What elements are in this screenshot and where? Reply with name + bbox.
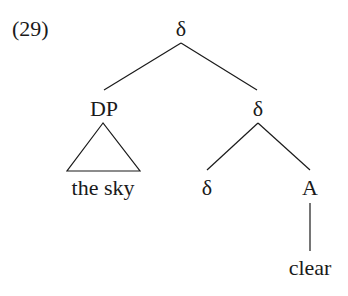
example-number: (29) bbox=[12, 16, 49, 41]
delta-node-right: δ bbox=[253, 96, 263, 121]
root-node: δ bbox=[176, 16, 186, 41]
dp-node: DP bbox=[90, 96, 118, 121]
branch-root-delta bbox=[181, 43, 257, 90]
branch-delta-a bbox=[258, 123, 310, 170]
branch-delta-delta bbox=[207, 123, 258, 170]
delta-node-lower: δ bbox=[202, 175, 212, 200]
dp-terminal: the sky bbox=[72, 175, 135, 200]
dp-triangle bbox=[67, 123, 140, 171]
syntax-tree: (29) δ DP the sky δ δ A clear bbox=[0, 0, 348, 296]
a-node: A bbox=[302, 175, 318, 200]
a-terminal: clear bbox=[289, 255, 332, 280]
branch-root-dp bbox=[104, 43, 181, 90]
